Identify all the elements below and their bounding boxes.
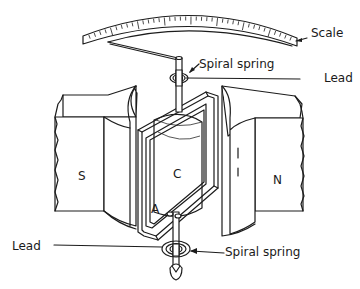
lead-top-label: Lead: [324, 72, 353, 84]
armature-label: A: [151, 203, 159, 215]
bottom-pivot-shaft: [167, 212, 181, 268]
galvanometer-diagram: Scale Spiral spring Lead Lead Spiral spr…: [0, 0, 360, 289]
lead-bottom-label: Lead: [12, 240, 41, 252]
arrow-scale: [296, 38, 307, 42]
diagram-drawing: [0, 0, 360, 289]
pointer-needle: [110, 44, 178, 60]
spiral-spring-top-label: Spiral spring: [199, 58, 274, 70]
scale-tick: [154, 19, 155, 23]
scale-label: Scale: [311, 27, 343, 39]
south-pole-label: S: [78, 170, 86, 182]
spiral-spring-bottom-label: Spiral spring: [225, 246, 300, 258]
north-pole-magnet: [222, 86, 304, 236]
scale-tick: [222, 19, 223, 23]
arrow-spring-bottom: [190, 248, 224, 254]
north-pole-label: N: [273, 174, 282, 186]
scale-arc: [83, 15, 297, 46]
top-lead-wire: [186, 78, 300, 79]
bottom-lead-wire: [54, 245, 162, 247]
arrow-spring-top: [189, 64, 199, 73]
south-pole-magnet: [55, 86, 137, 229]
core-label: C: [173, 168, 181, 180]
top-spiral-spring: [170, 70, 188, 86]
